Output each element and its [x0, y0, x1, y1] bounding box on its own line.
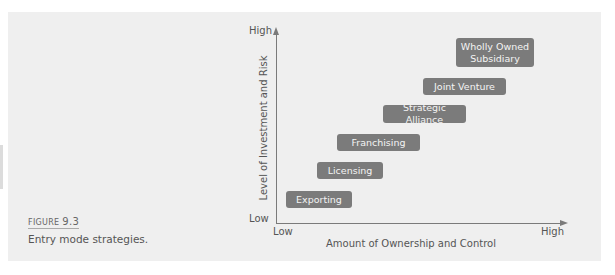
- y-axis-low-label: Low: [249, 213, 269, 224]
- x-axis-low-label: Low: [273, 226, 293, 237]
- y-axis-high-label: High: [249, 25, 272, 36]
- box-strategic-alliance: Strategic Alliance: [383, 105, 466, 123]
- page-edge-tab: [0, 145, 3, 189]
- box-joint-venture-label: Joint Venture: [434, 81, 495, 93]
- box-licensing: Licensing: [317, 162, 383, 179]
- box-wholly-owned-line1: Wholly Owned: [461, 41, 529, 53]
- box-wholly-owned-subsidiary: Wholly Owned Subsidiary: [456, 38, 534, 67]
- x-axis-line: [276, 223, 562, 224]
- box-exporting: Exporting: [286, 191, 352, 208]
- box-franchising-label: Franchising: [351, 137, 405, 149]
- figure-label-text: FIGURE: [28, 218, 59, 227]
- box-franchising: Franchising: [337, 134, 420, 151]
- y-axis-arrow-icon: [273, 27, 279, 35]
- box-exporting-label: Exporting: [296, 194, 342, 206]
- x-axis-title: Amount of Ownership and Control: [326, 238, 496, 249]
- box-joint-venture: Joint Venture: [423, 78, 506, 95]
- figure-number: 9.3: [62, 216, 79, 227]
- figure-label: FIGURE 9.3: [28, 216, 79, 229]
- figure-caption: Entry mode strategies.: [28, 233, 148, 245]
- y-axis-line: [276, 35, 277, 224]
- box-wholly-owned-line2: Subsidiary: [470, 53, 520, 65]
- x-axis-high-label: High: [541, 226, 564, 237]
- y-axis-title: Level of Investment and Risk: [258, 56, 269, 201]
- box-strategic-alliance-label: Strategic Alliance: [383, 102, 466, 126]
- box-licensing-label: Licensing: [328, 165, 373, 177]
